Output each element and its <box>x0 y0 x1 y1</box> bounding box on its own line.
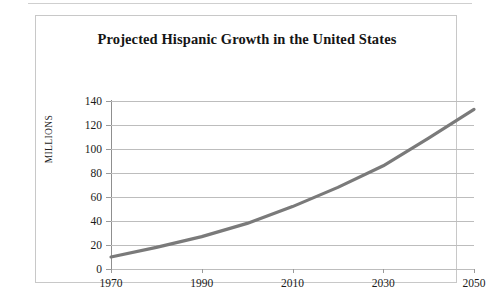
y-tick-label-20: 20 <box>91 239 103 251</box>
page-top-rule <box>28 3 472 4</box>
x-tick-label-2010: 2010 <box>281 277 304 289</box>
x-tickmark-2030 <box>383 269 384 273</box>
x-tickmark-2010 <box>293 269 294 273</box>
x-tickmark-1990 <box>202 269 203 273</box>
x-tickmark-1970 <box>111 269 112 273</box>
y-tick-label-60: 60 <box>91 191 103 203</box>
y-tick-label-120: 120 <box>85 119 102 131</box>
x-tickmark-2050 <box>474 269 475 273</box>
x-tick-label-1990: 1990 <box>190 277 213 289</box>
x-tick-label-2050: 2050 <box>463 277 486 289</box>
chart-frame: Projected Hispanic Growth in the United … <box>35 15 457 283</box>
y-axis-title: MILLIONS <box>44 104 54 174</box>
plot-area: 020406080100120140 19701990201020302050 <box>111 101 474 269</box>
y-tick-label-80: 80 <box>91 167 103 179</box>
y-tick-label-100: 100 <box>85 143 102 155</box>
y-tick-label-0: 0 <box>96 263 102 275</box>
y-tick-label-140: 140 <box>85 95 102 107</box>
series-line-hispanic-population <box>111 101 474 269</box>
x-tick-label-2030: 2030 <box>372 277 395 289</box>
x-tick-label-1970: 1970 <box>100 277 123 289</box>
chart-title: Projected Hispanic Growth in the United … <box>72 30 422 49</box>
y-tick-label-40: 40 <box>91 215 103 227</box>
